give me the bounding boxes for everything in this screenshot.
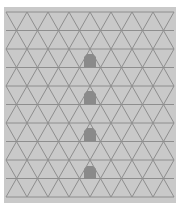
marker-block-3 xyxy=(84,128,96,141)
triangular-grid xyxy=(0,0,182,211)
marker-block-4 xyxy=(84,166,96,179)
marker-block-2 xyxy=(84,91,96,104)
marker-block-1 xyxy=(84,54,96,67)
